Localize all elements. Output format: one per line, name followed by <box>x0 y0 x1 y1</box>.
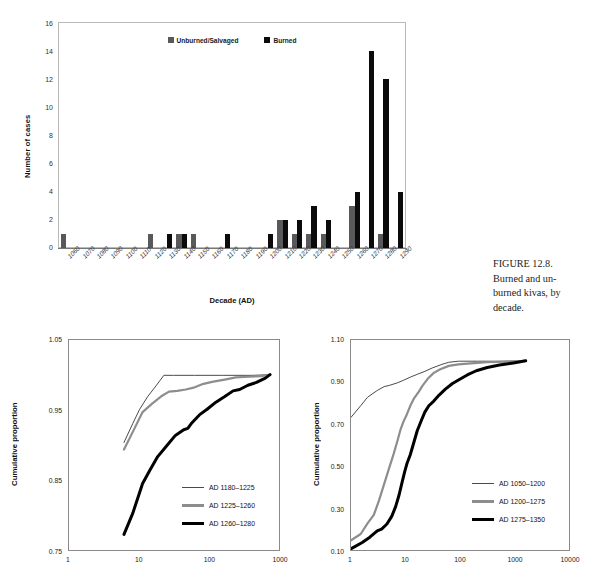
bar-burned <box>182 234 187 248</box>
bar-chart-x-tick: 1160 <box>203 251 217 291</box>
cdf-legend-item: AD 1225–1260 <box>182 502 255 509</box>
bar-group <box>203 23 217 248</box>
bar-group <box>174 23 188 248</box>
bar-group <box>146 23 160 248</box>
bar-chart-x-tick: 1220 <box>290 251 304 291</box>
figure-caption-line: decade. <box>493 301 601 316</box>
bar-chart-x-tick: 1270 <box>362 251 376 291</box>
cdf-legend-label: AD 1260–1280 <box>209 520 255 527</box>
bar-group <box>304 23 318 248</box>
cdf-left-y-axis-label: Cumulative proportion <box>8 377 21 512</box>
bar-group <box>362 23 376 248</box>
cdf-x-tick-label: 1 <box>348 556 352 563</box>
bar-chart-y-tick: 8 <box>49 132 53 139</box>
cdf-x-tick-label: 10000 <box>561 556 580 563</box>
legend-line-icon <box>472 500 494 502</box>
bar-chart-x-tick: 1180 <box>232 251 246 291</box>
cdf-left-x-tick-labels: 1101001000 <box>68 556 280 570</box>
bar-burned <box>268 234 273 248</box>
bar-group <box>59 23 73 248</box>
bar-chart-x-tick: 1260 <box>347 251 361 291</box>
cdf-x-tick-label: 10 <box>135 556 143 563</box>
bar-chart-x-tick: 1060 <box>59 251 73 291</box>
bar-chart-x-tick: 1080 <box>88 251 102 291</box>
bar-group <box>261 23 275 248</box>
legend-line-icon <box>182 504 204 506</box>
bar-chart-y-tick: 0 <box>49 244 53 251</box>
bar-burned <box>383 79 388 248</box>
legend-line-icon <box>472 483 494 484</box>
bar-chart-x-tick: 1120 <box>146 251 160 291</box>
bar-group <box>391 23 405 248</box>
bar-group <box>275 23 289 248</box>
cdf-x-tick-label: 1000 <box>272 556 287 563</box>
bar-chart-y-tick-labels: 0246810121416 <box>32 22 56 248</box>
cdf-chart-right: Cumulative proportion 0.100.300.500.700.… <box>302 322 604 570</box>
bar-group <box>73 23 87 248</box>
bar-group <box>160 23 174 248</box>
bar-group <box>131 23 145 248</box>
bar-group <box>319 23 333 248</box>
cdf-legend-label: AD 1275–1350 <box>499 516 545 523</box>
bar-chart-x-tick: 1110 <box>131 251 145 291</box>
bar-group <box>246 23 260 248</box>
cdf-legend-label: AD 1050–1200 <box>499 480 545 487</box>
bar-burned <box>225 234 230 248</box>
bar-chart-x-tick: 1190 <box>246 251 260 291</box>
cdf-x-tick-label: 100 <box>454 556 465 563</box>
cdf-y-tick-label: 0.75 <box>49 548 62 555</box>
bar-group <box>102 23 116 248</box>
bar-chart-y-tick: 2 <box>49 216 53 223</box>
bar-burned <box>355 192 360 248</box>
bar-chart-x-tick: 1240 <box>319 251 333 291</box>
bar-chart-x-tick: 1280 <box>376 251 390 291</box>
cdf-legend-label: AD 1180–1225 <box>209 484 254 491</box>
bar-chart-y-tick: 14 <box>45 48 53 55</box>
cdf-right-legend: AD 1050–1200AD 1200–1275AD 1275–1350 <box>472 480 545 534</box>
bar-chart-x-tick: 1250 <box>333 251 347 291</box>
bar-chart-x-tick: 1130 <box>160 251 174 291</box>
bar-group <box>376 23 390 248</box>
cdf-legend-item: AD 1260–1280 <box>182 520 255 527</box>
bar-group <box>333 23 347 248</box>
bar-group <box>347 23 361 248</box>
cdf-legend-item: AD 1275–1350 <box>472 516 545 523</box>
legend-line-icon <box>472 518 494 521</box>
bar-chart-x-tick: 1140 <box>174 251 188 291</box>
legend-line-icon <box>182 522 204 525</box>
bar-group <box>232 23 246 248</box>
cdf-y-tick-label: 0.90 <box>331 378 344 385</box>
legend-line-icon <box>182 487 204 488</box>
cdf-y-tick-label: 0.95 <box>49 406 62 413</box>
cdf-x-tick-label: 100 <box>204 556 215 563</box>
cdf-left-legend: AD 1180–1225AD 1225–1260AD 1260–1280 <box>182 484 255 538</box>
bar-burned <box>283 220 288 248</box>
bar-burned <box>369 51 374 248</box>
cdf-legend-item: AD 1180–1225 <box>182 484 255 491</box>
bar-chart-x-tick: 1210 <box>275 251 289 291</box>
bar-chart-y-tick: 4 <box>49 188 53 195</box>
bar-burned <box>311 206 316 248</box>
figure-caption: FIGURE 12.8.Burned and un-burned kivas, … <box>493 257 601 315</box>
bar-group <box>88 23 102 248</box>
bar-chart-y-tick: 10 <box>45 104 53 111</box>
bar-group <box>189 23 203 248</box>
cdf-y-tick-label: 0.30 <box>331 505 344 512</box>
bar-chart-x-tick: 1100 <box>117 251 131 291</box>
bar-chart-x-tick-labels: 1060107010801090110011101120113011401150… <box>59 251 405 291</box>
cdf-y-tick-label: 0.70 <box>331 420 344 427</box>
cdf-x-tick-label: 1000 <box>507 556 522 563</box>
cdf-left-y-tick-labels: 0.750.850.951.05 <box>34 339 66 551</box>
cdf-right-x-tick-labels: 110100100010000 <box>350 556 570 570</box>
bar-chart-x-tick: 1150 <box>189 251 203 291</box>
figure-caption-line: Burned and un- <box>493 272 601 287</box>
bar-chart-x-tick: 1070 <box>73 251 87 291</box>
cdf-chart-left: Cumulative proportion 0.750.850.951.05 1… <box>0 322 302 570</box>
cdf-y-tick-label: 0.10 <box>331 548 344 555</box>
cdf-y-tick-label: 1.05 <box>49 336 62 343</box>
cdf-legend-label: AD 1225–1260 <box>209 502 255 509</box>
bar-unburned <box>61 234 66 248</box>
cdf-y-tick-label: 0.85 <box>49 477 62 484</box>
bar-group <box>117 23 131 248</box>
cdf-right-y-tick-labels: 0.100.300.500.700.901.10 <box>316 339 348 551</box>
